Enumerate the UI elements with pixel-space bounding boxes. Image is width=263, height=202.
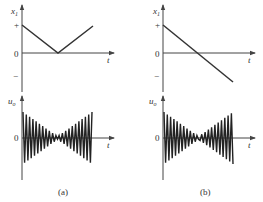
x-axis-label: t xyxy=(248,140,251,150)
panel-b-bottom-plot: uo 0 t xyxy=(149,96,255,180)
x-axis-label: t xyxy=(248,55,251,65)
x-axis-label: t xyxy=(107,140,110,150)
caption-a: (a) xyxy=(58,187,68,197)
tick-minus: − xyxy=(13,71,18,81)
y-axis-label: uo xyxy=(8,96,16,107)
y-axis-label: x1 xyxy=(152,6,160,17)
tick-zero: 0 xyxy=(14,49,19,59)
y-axis-label: uo xyxy=(149,96,157,107)
panel-a-top-plot: x1 + 0 − t xyxy=(10,5,114,92)
x-axis-label: t xyxy=(107,55,110,65)
panel-b-top-plot: x1 + 0 − t xyxy=(152,5,255,92)
uo-oscillation xyxy=(23,112,92,163)
panel-a-bottom-plot: uo 0 t xyxy=(8,96,114,180)
caption-b: (b) xyxy=(200,187,211,197)
tick-plus: + xyxy=(155,20,160,30)
tick-zero: 0 xyxy=(155,133,160,143)
figure-canvas: x1 + 0 − t x1 + 0 − t uo 0 t uo 0 t (a) … xyxy=(0,0,263,202)
tick-minus: − xyxy=(154,71,159,81)
x1-curve xyxy=(22,25,93,53)
y-axis-label: x1 xyxy=(10,6,18,17)
tick-plus: + xyxy=(14,20,19,30)
uo-oscillation xyxy=(164,112,233,164)
tick-zero: 0 xyxy=(155,49,160,59)
tick-zero: 0 xyxy=(14,133,19,143)
